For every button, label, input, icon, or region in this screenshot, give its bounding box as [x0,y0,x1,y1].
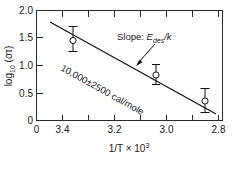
y-axis-tick-labels: 2.0 1.5 1.0 0.5 0 [19,5,33,126]
x-axis-title-exponent: 3 [145,142,149,149]
x-tick-label-3: 3.0 [160,124,174,135]
y-tick-label-1: 1.5 [19,32,33,43]
slope-annotation-lead: Slope: [117,31,147,42]
arrow-head-icon [136,60,143,66]
data-marker [202,98,208,104]
svg-text:log10 (στ): log10 (στ) [3,46,16,87]
y-tick-label-2: 1.0 [19,60,33,71]
x-axis-title: 1/T × 103 [109,142,150,154]
x-axis-title-base: 1/T × 10 [109,143,146,154]
slope-annotation-tail: /k [163,31,173,42]
y-axis-tickmarks-left [37,11,43,121]
data-marker [70,37,76,43]
data-marker [153,72,159,78]
chart-figure: 0 3.4 3.2 3.0 2.8 2.0 1.5 1.0 0.5 0 1/T … [0,0,233,170]
data-point-1 [69,26,78,52]
svg-text:Slope: Edes/k: Slope: Edes/k [117,31,173,44]
x-tick-label-1: 3.4 [56,124,70,135]
x-tick-label-4: 2.8 [212,124,226,135]
slope-annotation-arrow [136,44,155,66]
slope-annotation: Slope: Edes/k [117,31,173,44]
y-tick-label-3: 0.5 [19,88,33,99]
y-tick-label-4: 0 [27,115,33,126]
activation-energy-annotation: 10,000±2500 cal/mole [59,62,146,117]
x-tick-label-0: 0 [34,124,40,135]
x-axis-tickmarks-bottom [37,115,219,121]
slope-annotation-subscript: des [153,37,165,44]
y-axis-title-base: log [3,73,14,86]
x-axis-tick-labels: 0 3.4 3.2 3.0 2.8 [34,124,226,135]
x-axis-tickmarks-top [63,11,219,17]
svg-text:1/T × 103: 1/T × 103 [109,142,150,154]
y-tick-label-0: 2.0 [19,5,33,16]
y-axis-title-subscript: 10 [9,65,16,73]
y-axis-title-tail: (στ) [3,46,14,66]
x-tick-label-2: 3.2 [108,124,122,135]
activation-energy-text: 10,000±2500 cal/mole [59,62,146,117]
plot-canvas: 0 3.4 3.2 3.0 2.8 2.0 1.5 1.0 0.5 0 1/T … [0,0,233,170]
y-axis-title: log10 (στ) [3,46,16,87]
